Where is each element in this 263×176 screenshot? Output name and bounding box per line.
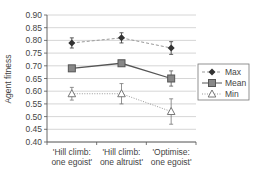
triangle-marker (118, 90, 126, 97)
y-tick-label: 0.50 (25, 112, 42, 122)
x-category-label: 'Hill climb:one altruist' (100, 147, 144, 167)
square-marker (118, 60, 125, 67)
y-tick-label: 0.40 (25, 137, 42, 147)
y-axis: 0.900.850.800.750.700.650.600.550.500.45… (25, 10, 47, 147)
legend-label: Mean (225, 78, 247, 88)
y-tick-label: 0.90 (25, 10, 42, 20)
y-tick-label: 0.80 (25, 35, 42, 45)
legend-label: Min (225, 89, 239, 99)
diamond-marker (168, 45, 175, 52)
x-category-label: 'Optimise:one egoist' (151, 147, 192, 167)
y-tick-label: 0.65 (25, 74, 42, 84)
square-marker (68, 65, 75, 72)
series-max (68, 33, 174, 55)
series-mean (68, 60, 174, 86)
y-tick-label: 0.45 (25, 124, 42, 134)
legend: MaxMeanMin (198, 64, 249, 100)
legend-label: Max (225, 67, 242, 77)
square-marker (168, 75, 175, 82)
y-tick-label: 0.85 (25, 23, 42, 33)
y-tick-label: 0.70 (25, 61, 42, 71)
square-marker (209, 80, 216, 87)
y-tick-label: 0.55 (25, 99, 42, 109)
x-category-label: 'Hill climb:one egoist' (51, 147, 92, 167)
triangle-marker (167, 108, 175, 115)
y-tick-label: 0.60 (25, 86, 42, 96)
x-axis: 'Hill climb:one egoist''Hill climb:one a… (47, 142, 196, 167)
y-axis-title: Agent fitness (3, 54, 13, 103)
line-chart: 0.900.850.800.750.700.650.600.550.500.45… (0, 0, 263, 176)
y-tick-label: 0.75 (25, 48, 42, 58)
